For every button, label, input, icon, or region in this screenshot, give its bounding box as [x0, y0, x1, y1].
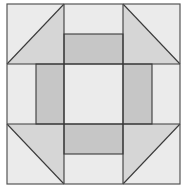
churn-dash-quilt-block [0, 0, 181, 188]
right-rect [123, 64, 152, 124]
bottom-rect [64, 124, 123, 154]
left-rect [36, 64, 64, 124]
block-background [7, 4, 180, 184]
top-rect [64, 34, 123, 64]
